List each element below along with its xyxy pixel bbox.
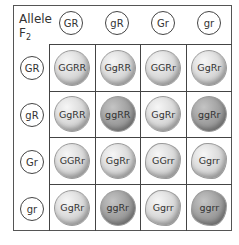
pea-yellow-round: GgRR	[100, 50, 136, 86]
allele-label: Allele	[19, 12, 52, 26]
pea-green-wrinkled: ggrr	[191, 190, 227, 226]
pea-green-round: ggRr	[191, 96, 227, 132]
corner-label: Allele F2	[19, 12, 52, 45]
grid-cell: ggrr	[187, 185, 233, 232]
pea-yellow-round: GGRr	[54, 143, 90, 179]
grid-cell: GgRr	[141, 92, 187, 139]
column-header-allele: GR	[59, 11, 83, 35]
punnett-grid: GGRR GgRR GGRr GgRr GgRR ggRR GgRr ggRr …	[49, 44, 232, 231]
grid-cell: GgRr	[96, 138, 142, 185]
pea-yellow-wrinkled: Ggrr	[191, 143, 227, 179]
pea-yellow-round: GGRr	[145, 50, 181, 86]
pea-yellow-round: GgRr	[54, 190, 90, 226]
grid-cell: ggRr	[96, 185, 142, 232]
grid-cell: GGRr	[50, 138, 96, 185]
generation-label: F2	[19, 26, 52, 45]
grid-cell: GGRr	[141, 45, 187, 92]
pea-yellow-round: GgRR	[54, 96, 90, 132]
pea-yellow-round: GgRr	[100, 143, 136, 179]
row-header-allele: gR	[20, 103, 44, 127]
column-header-allele: gR	[105, 11, 129, 35]
grid-cell: ggRr	[187, 92, 233, 139]
column-header-allele: Gr	[151, 11, 175, 35]
pea-green-round: ggRR	[100, 96, 136, 132]
column-header-allele: gr	[197, 11, 221, 35]
grid-cell: Ggrr	[141, 185, 187, 232]
row-header-allele: Gr	[20, 150, 44, 174]
row-header-allele: GR	[20, 56, 44, 80]
grid-cell: GgRr	[50, 185, 96, 232]
pea-yellow-wrinkled: Ggrr	[145, 190, 181, 226]
row-header-allele: gr	[20, 197, 44, 221]
pea-yellow-round: GgRr	[145, 96, 181, 132]
pea-green-round: ggRr	[100, 190, 136, 226]
pea-yellow-round: GGRR	[54, 50, 90, 86]
pea-yellow-wrinkled: GGrr	[145, 143, 181, 179]
grid-cell: GGRR	[50, 45, 96, 92]
grid-cell: Ggrr	[187, 138, 233, 185]
grid-cell: GgRr	[187, 45, 233, 92]
pea-yellow-round: GgRr	[191, 50, 227, 86]
grid-cell: GgRR	[50, 92, 96, 139]
grid-cell: GGrr	[141, 138, 187, 185]
grid-cell: GgRR	[96, 45, 142, 92]
grid-cell: ggRR	[96, 92, 142, 139]
